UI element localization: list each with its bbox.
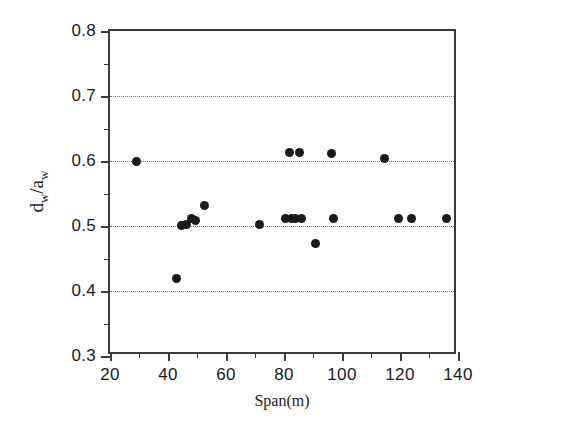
y-tick-label-0_7: 0.7 [71,86,96,106]
gridline-y-0_4 [110,291,454,292]
y-tick-0_6 [101,161,110,163]
x-tick-label-40: 40 [158,365,178,385]
data-point [132,157,141,166]
scatter-chart-figure: dw/aw 0.30.40.50.60.70.8 204060801001201… [0,0,562,426]
y-tick-minor-0_35 [104,324,110,325]
x-tick-label-120: 120 [385,365,414,385]
y-axis-title-text: dw/aw [26,171,51,213]
x-tick-minor-90 [313,352,314,358]
x-tick-40 [168,352,170,361]
y-tick-minor-0_45 [104,259,110,260]
x-tick-140 [458,352,460,361]
x-tick-60 [226,352,228,361]
y-axis-denominator-subscript: w [36,171,51,180]
y-axis-slash: / [26,188,47,193]
data-point [285,148,294,157]
data-point [172,274,181,283]
gridline-y-0_7 [110,96,454,97]
x-tick-label-140: 140 [443,365,472,385]
x-tick-120 [400,352,402,361]
y-tick-minor-0_65 [104,129,110,130]
data-point [380,154,389,163]
x-tick-label-100: 100 [327,365,356,385]
data-point [394,214,403,223]
data-point [295,148,304,157]
plot-area: 0.30.40.50.60.70.8 20406080100120140 [108,29,456,354]
data-point [407,214,416,223]
y-tick-minor-0_75 [104,64,110,65]
y-tick-minor-0_55 [104,194,110,195]
data-point [329,214,338,223]
y-axis-numerator: d [26,203,47,213]
y-tick-label-0_6: 0.6 [71,151,96,171]
y-tick-label-0_8: 0.8 [71,21,96,41]
y-axis-numerator-subscript: w [36,194,51,203]
x-tick-20 [110,352,112,361]
x-tick-label-60: 60 [216,365,236,385]
y-tick-0_3 [101,356,110,358]
y-axis-denominator: a [26,180,47,188]
data-point [327,149,336,158]
x-tick-minor-50 [197,352,198,358]
data-point [255,220,264,229]
data-point [191,216,200,225]
y-tick-label-0_3: 0.3 [71,346,96,366]
y-tick-0_5 [101,226,110,228]
y-tick-label-0_5: 0.5 [71,216,96,236]
x-tick-80 [284,352,286,361]
x-tick-minor-130 [429,352,430,358]
y-tick-label-0_4: 0.4 [71,281,96,301]
x-tick-minor-30 [139,352,140,358]
gridline-y-0_6 [110,161,454,162]
x-tick-minor-70 [255,352,256,358]
x-tick-label-20: 20 [100,365,120,385]
data-point [297,214,306,223]
gridline-y-0_5 [110,226,454,227]
y-tick-0_4 [101,291,110,293]
x-tick-label-80: 80 [274,365,294,385]
x-axis-title: Span(m) [108,392,456,410]
y-axis-title: dw/aw [26,29,52,354]
y-tick-0_7 [101,96,110,98]
data-point [200,201,209,210]
data-point [442,214,451,223]
x-tick-minor-110 [371,352,372,358]
x-tick-100 [342,352,344,361]
data-point [311,239,320,248]
y-tick-0_8 [101,31,110,33]
